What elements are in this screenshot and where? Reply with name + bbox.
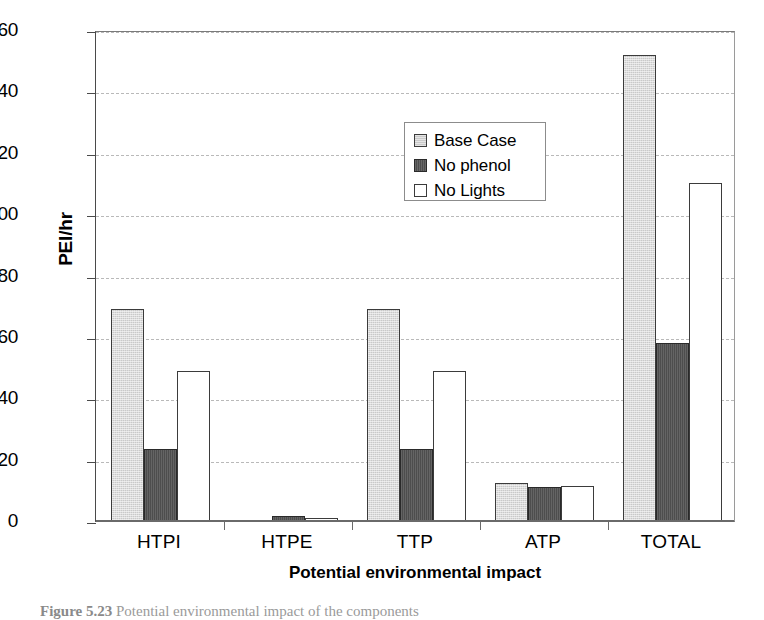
x-axis-label-htpe: HTPE	[223, 531, 351, 553]
x-axis-label-htpi: HTPI	[95, 531, 223, 553]
y-axis-tick	[87, 400, 96, 401]
x-axis-tick	[224, 521, 225, 530]
y-axis-title: PEI/hr	[55, 179, 77, 299]
legend-swatch-no-phenol	[414, 159, 427, 172]
legend-label-no-lights: No Lights	[434, 181, 505, 201]
x-axis-baseline	[96, 520, 734, 521]
figure-caption: Figure 5.23 Potential environmental impa…	[40, 603, 740, 620]
bar-ttp-no-phenol	[400, 449, 433, 521]
x-axis-tick	[352, 521, 353, 530]
bar-htpi-base-case	[111, 309, 144, 521]
y-axis-tick-label: 0	[0, 510, 18, 532]
bar-htpi-no-phenol	[144, 449, 177, 521]
legend-label-base-case: Base Case	[434, 131, 516, 151]
y-axis-tick	[87, 278, 96, 279]
y-axis-tick	[87, 462, 96, 463]
y-axis-tick	[87, 32, 96, 33]
y-axis-tick	[87, 155, 96, 156]
bar-atp-no-phenol	[528, 487, 561, 521]
legend-item: No phenol	[414, 153, 545, 178]
bar-htpi-no-lights	[177, 371, 210, 521]
x-axis-tick	[480, 521, 481, 530]
x-axis-label-ttp: TTP	[351, 531, 479, 553]
legend-swatch-base-case	[414, 134, 427, 147]
bar-ttp-no-lights	[433, 371, 466, 521]
y-axis-tick-label: 40	[0, 387, 18, 409]
y-axis-tick-label: 20	[0, 449, 18, 471]
plot-area	[95, 31, 735, 522]
bar-atp-base-case	[495, 483, 528, 521]
bar-total-base-case	[623, 55, 656, 521]
y-axis-tick	[87, 216, 96, 217]
y-axis-tick	[87, 523, 96, 524]
bar-total-no-lights	[689, 183, 722, 521]
y-axis-tick	[87, 339, 96, 340]
bar-atp-no-lights	[561, 486, 594, 521]
x-axis-tick	[608, 521, 609, 530]
y-axis-tick	[87, 93, 96, 94]
figure-caption-text: Potential environmental impact of the co…	[116, 603, 419, 619]
legend-box: Base Case No phenol No Lights	[404, 122, 546, 201]
x-axis-title: Potential environmental impact	[95, 563, 735, 583]
y-axis-tick-label: 80	[0, 265, 18, 287]
y-axis-tick-label: 60	[0, 326, 18, 348]
legend-item: Base Case	[414, 128, 545, 153]
y-axis-tick-label: 120	[0, 142, 18, 164]
x-axis-label-total: TOTAL	[607, 531, 735, 553]
legend-label-no-phenol: No phenol	[434, 156, 511, 176]
gridline	[96, 32, 734, 33]
x-axis-label-atp: ATP	[479, 531, 607, 553]
bar-total-no-phenol	[656, 343, 689, 521]
figure-number: Figure 5.23	[40, 603, 112, 619]
y-axis-tick-label: 160	[0, 19, 18, 41]
bar-ttp-base-case	[367, 309, 400, 521]
y-axis-tick-label: 140	[0, 80, 18, 102]
legend-swatch-no-lights	[414, 184, 427, 197]
legend-item: No Lights	[414, 178, 545, 203]
y-axis-tick-label: 100	[0, 203, 18, 225]
